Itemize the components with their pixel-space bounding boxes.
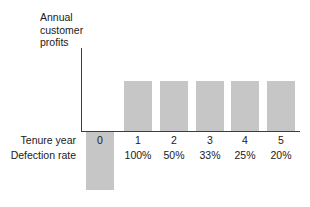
defection-rate-value-5: 20% <box>263 149 299 161</box>
plot-area <box>0 0 310 207</box>
bar-year-1 <box>124 81 152 131</box>
chart-container: Annual customer profits Tenure year Defe… <box>0 0 310 207</box>
tenure-year-value-4: 4 <box>231 134 259 146</box>
defection-rate-value-3: 33% <box>192 149 228 161</box>
tenure-year-value-0: 0 <box>86 134 114 146</box>
defection-rate-value-1: 100% <box>120 149 156 161</box>
bar-year-3 <box>196 81 224 131</box>
bar-year-2 <box>160 81 188 131</box>
row-label-defection-rate: Defection rate <box>0 149 76 161</box>
bar-year-5 <box>267 81 295 131</box>
tenure-year-value-1: 1 <box>124 134 152 146</box>
defection-rate-value-2: 50% <box>156 149 192 161</box>
defection-rate-value-4: 25% <box>227 149 263 161</box>
tenure-year-value-5: 5 <box>267 134 295 146</box>
row-label-tenure-year: Tenure year <box>0 134 76 146</box>
tenure-year-value-3: 3 <box>196 134 224 146</box>
bar-year-4 <box>231 81 259 131</box>
tenure-year-value-2: 2 <box>160 134 188 146</box>
